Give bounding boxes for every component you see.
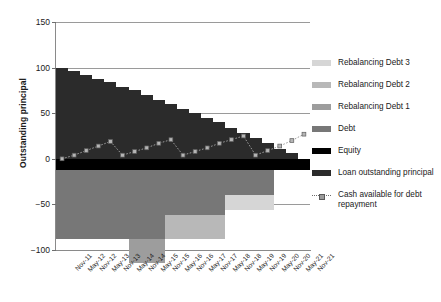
cash-line-marker bbox=[290, 139, 294, 143]
y-tick-label: −100 bbox=[31, 245, 50, 255]
cash-line-svg bbox=[56, 22, 310, 250]
legend-item[interactable]: Equity bbox=[312, 146, 440, 156]
legend-item[interactable]: Rebalancing Debt 2 bbox=[312, 80, 440, 90]
legend-label: Rebalancing Debt 3 bbox=[338, 58, 410, 68]
plot-area: 150100500−50−100 bbox=[56, 22, 310, 250]
legend-item[interactable]: Debt bbox=[312, 124, 440, 134]
legend-label: Rebalancing Debt 1 bbox=[338, 102, 410, 112]
cash-line-marker bbox=[217, 141, 221, 145]
y-tick-mark bbox=[52, 250, 56, 251]
y-tick-label: 0 bbox=[45, 154, 50, 164]
cash-line-marker bbox=[242, 134, 246, 138]
y-tick-label: 100 bbox=[36, 63, 50, 73]
x-axis-line bbox=[55, 250, 311, 251]
legend-color-swatch bbox=[312, 126, 331, 132]
legend-label: Loan outstanding principal bbox=[338, 168, 434, 178]
chart-legend: Rebalancing Debt 3Rebalancing Debt 2Reba… bbox=[312, 58, 440, 221]
legend-label: Debt bbox=[338, 124, 355, 134]
legend-label: Cash available for debt repayment bbox=[338, 190, 440, 209]
cash-line-marker bbox=[169, 138, 173, 142]
legend-item[interactable]: Loan outstanding principal bbox=[312, 168, 440, 178]
chart-figure: Outstanding principal 150100500−50−100 N… bbox=[0, 0, 441, 302]
cash-line-marker bbox=[278, 144, 282, 148]
cash-line-marker bbox=[133, 150, 137, 154]
legend-item[interactable]: Rebalancing Debt 1 bbox=[312, 102, 440, 112]
cash-line-marker bbox=[60, 157, 64, 161]
legend-color-swatch bbox=[312, 104, 331, 110]
legend-color-swatch bbox=[312, 148, 331, 154]
legend-item[interactable]: Rebalancing Debt 3 bbox=[312, 58, 440, 68]
cash-line-marker bbox=[181, 153, 185, 157]
cash-line-marker bbox=[205, 146, 209, 150]
legend-label: Equity bbox=[338, 146, 361, 156]
cash-line-marker bbox=[266, 149, 270, 153]
cash-line-marker bbox=[72, 153, 76, 157]
legend-dashed-line-icon bbox=[312, 195, 331, 196]
cash-line-marker bbox=[109, 140, 113, 144]
legend-color-swatch bbox=[312, 60, 331, 66]
x-axis-labels: Nov-11May-12Nov-12May-13Nov-13May-14Nov-… bbox=[56, 252, 310, 302]
cash-line-marker bbox=[96, 144, 100, 148]
y-tick-label: 150 bbox=[36, 17, 50, 27]
y-tick-label: −50 bbox=[36, 199, 50, 209]
cash-line-marker bbox=[121, 153, 125, 157]
cash-line-marker bbox=[193, 150, 197, 154]
legend-color-swatch bbox=[312, 170, 331, 176]
legend-color-swatch bbox=[312, 82, 331, 88]
y-tick-label: 50 bbox=[41, 108, 50, 118]
legend-label: Rebalancing Debt 2 bbox=[338, 80, 410, 90]
cash-line-marker bbox=[145, 146, 149, 150]
cash-line-marker bbox=[229, 138, 233, 142]
cash-line-marker bbox=[254, 153, 258, 157]
cash-line-marker bbox=[84, 149, 88, 153]
y-axis-title: Outstanding principal bbox=[18, 38, 28, 208]
cash-line-marker bbox=[157, 141, 161, 145]
cash-line-marker bbox=[302, 132, 306, 136]
legend-item[interactable]: Cash available for debt repayment bbox=[312, 190, 440, 209]
